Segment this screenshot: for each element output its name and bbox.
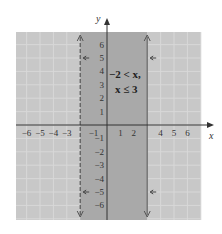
x-tick-label: −4 — [49, 128, 59, 138]
x-tick-label: 6 — [185, 128, 190, 138]
solution-region — [80, 32, 147, 220]
inequality-label-line1: −2 < x, — [109, 68, 141, 80]
x-axis-label: x — [208, 130, 214, 141]
x-tick-label: 2 — [132, 128, 137, 138]
x-tick-label: −5 — [35, 128, 45, 138]
x-tick-label: −6 — [22, 128, 32, 138]
x-tick-label: 4 — [158, 128, 163, 138]
inequality-graph: −6−5−4−3−112456654321−1−2−3−4−5−6 x y −2… — [0, 0, 222, 234]
y-axis-label: y — [95, 13, 101, 24]
x-tick-label: 1 — [118, 128, 123, 138]
y-tick-label: 5 — [100, 53, 105, 63]
x-tick-label: −3 — [62, 128, 72, 138]
x-axis-arrow-icon — [207, 122, 214, 128]
y-tick-label: 4 — [100, 66, 105, 76]
y-tick-label: 1 — [100, 107, 105, 117]
y-tick-label: −4 — [94, 174, 104, 184]
y-tick-label: 6 — [100, 40, 105, 50]
y-tick-label: −1 — [94, 133, 104, 143]
x-tick-label: 5 — [172, 128, 177, 138]
y-axis-arrow-icon — [104, 18, 110, 25]
y-tick-label: −3 — [94, 160, 104, 170]
y-tick-label: −2 — [94, 147, 104, 157]
y-tick-label: 2 — [100, 93, 105, 103]
y-tick-label: −6 — [94, 200, 104, 210]
y-tick-label: −5 — [94, 187, 104, 197]
y-tick-label: 3 — [100, 80, 105, 90]
inequality-label-line2: x ≤ 3 — [115, 83, 138, 95]
